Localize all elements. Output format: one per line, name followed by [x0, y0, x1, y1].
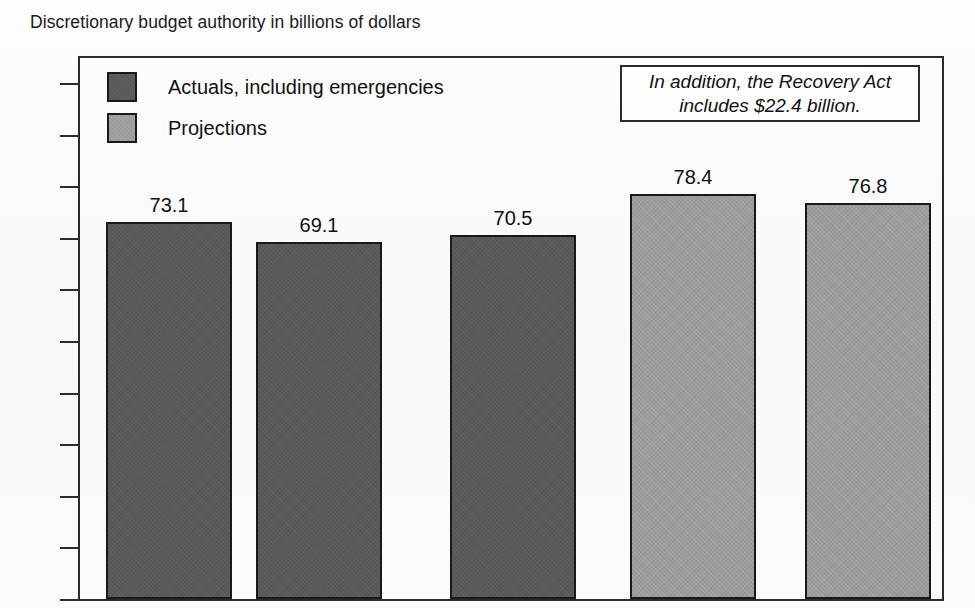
y-axis-tick-mark	[60, 444, 78, 446]
bar	[630, 194, 756, 599]
y-axis-tick-mark	[60, 496, 78, 498]
y-axis-tick-mark	[60, 186, 78, 188]
bar	[106, 222, 232, 599]
bar-value-label: 76.8	[805, 175, 931, 198]
legend-item-label: Projections	[168, 117, 267, 140]
legend-item: Actuals, including emergencies	[107, 72, 444, 102]
bar	[450, 235, 576, 599]
legend-item: Projections	[107, 113, 444, 143]
legend-swatch	[107, 72, 137, 102]
y-axis-tick-mark	[60, 83, 78, 85]
y-axis-tick-mark	[60, 238, 78, 240]
y-axis-tick-mark	[60, 393, 78, 395]
annotation-line-2: includes $22.4 billion.	[679, 94, 861, 118]
bar	[256, 242, 382, 599]
bar	[805, 203, 931, 599]
bar-value-label: 73.1	[106, 194, 232, 217]
annotation-line-1: In addition, the Recovery Act	[649, 70, 891, 94]
recovery-act-annotation: In addition, the Recovery Act includes $…	[620, 65, 920, 122]
y-axis-tick-mark	[60, 135, 78, 137]
y-axis-tick-mark	[60, 547, 78, 549]
y-axis-tick-mark	[60, 289, 78, 291]
legend-swatch	[107, 113, 137, 143]
legend-item-label: Actuals, including emergencies	[168, 76, 444, 99]
y-axis-tick-mark	[60, 599, 78, 601]
y-axis-tick-mark	[60, 341, 78, 343]
chart-legend: Actuals, including emergenciesProjection…	[107, 72, 444, 154]
bar-value-label: 78.4	[630, 166, 756, 189]
bar-value-label: 69.1	[256, 214, 382, 237]
bar-value-label: 70.5	[450, 207, 576, 230]
